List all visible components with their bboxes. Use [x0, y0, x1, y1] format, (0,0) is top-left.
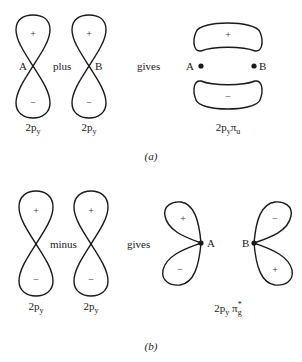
gives-label: gives [127, 238, 150, 250]
sign-minus: − [225, 92, 231, 102]
result-atom-a-label: A [207, 237, 215, 249]
sign-minus: − [33, 275, 39, 285]
orbital-sub: y [40, 306, 44, 315]
result-label-pi-u: 2pyπu [216, 121, 241, 136]
sign-minus: − [30, 98, 36, 108]
caption-a: (a) [145, 150, 158, 162]
symmetry-sub: g [238, 308, 242, 317]
atom-b-dot-b [251, 240, 256, 245]
orbital-base: 2p [82, 121, 93, 133]
sign-plus: + [33, 206, 39, 216]
operator-plus: plus [53, 60, 71, 72]
sign-plus: + [88, 206, 94, 216]
orbital-base: 2p [84, 300, 95, 312]
operator-minus: minus [50, 238, 77, 250]
orbital-label-2py: 2py [82, 121, 97, 136]
orbital-sub: y [37, 127, 41, 136]
result-label-pi-g-star: 2py π*g [214, 300, 241, 317]
symmetry-sub: u [236, 127, 240, 136]
orbital-base: 2p [214, 302, 225, 314]
sign-minus: − [177, 265, 183, 275]
atom-b-label: B [95, 60, 102, 72]
orbital-base: 2p [216, 121, 227, 133]
result-atom-b-label: B [242, 237, 249, 249]
sign-plus: + [30, 29, 36, 39]
orbital-diagram [0, 0, 302, 362]
orbital-label-2py: 2py [26, 121, 41, 136]
sign-minus: − [272, 214, 278, 224]
sign-minus: − [86, 98, 92, 108]
atom-a-dot [198, 63, 203, 68]
caption-b: (b) [145, 340, 158, 352]
sign-plus: + [180, 214, 186, 224]
sign-plus: + [225, 30, 231, 40]
orbital-base: 2p [26, 121, 37, 133]
sign-plus: + [272, 265, 278, 275]
orbital-sub: y [93, 127, 97, 136]
result-atom-a-label: A [186, 60, 194, 72]
orbital-sub: y [95, 306, 99, 315]
orbital-sub: y [225, 308, 229, 317]
atom-a-dot-b [198, 240, 203, 245]
sign-minus: − [88, 275, 94, 285]
atom-a-label: A [19, 60, 27, 72]
result-atom-b-label: B [259, 60, 266, 72]
orbital-base: 2p [29, 300, 40, 312]
gives-label: gives [137, 60, 160, 72]
orbital-label-2py: 2py [84, 300, 99, 315]
orbital-label-2py: 2py [29, 300, 44, 315]
atom-b-dot [251, 63, 256, 68]
sign-plus: + [86, 29, 92, 39]
